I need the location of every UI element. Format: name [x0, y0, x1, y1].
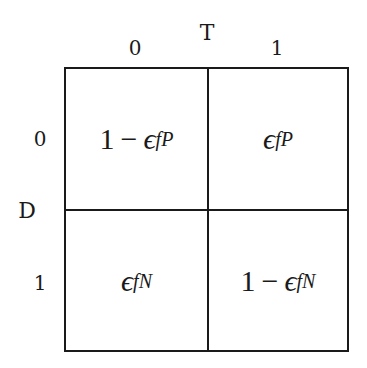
- row-label-0: 0: [34, 129, 47, 149]
- cell-d0-t1: ϵfP: [209, 69, 347, 209]
- row-axis-title: D: [18, 200, 36, 222]
- column-axis-title: T: [200, 22, 215, 44]
- row-label-1: 1: [34, 273, 47, 293]
- cell-prefix: 1: [241, 264, 256, 298]
- cell-d1-t0: ϵfN: [66, 211, 207, 350]
- cell-d1-t1: 1 − ϵfN: [209, 211, 347, 350]
- matrix-grid: 1 − ϵfP ϵfP ϵfN 1 − ϵfN: [64, 67, 349, 352]
- column-label-1: 1: [271, 38, 284, 58]
- epsilon-symbol: ϵ: [144, 122, 156, 156]
- epsilon-symbol: ϵ: [121, 264, 133, 298]
- epsilon-symbol: ϵ: [263, 122, 275, 156]
- cell-operator: −: [262, 264, 279, 298]
- cell-operator: −: [121, 122, 138, 156]
- cell-d0-t0: 1 − ϵfP: [66, 69, 207, 209]
- column-label-0: 0: [129, 38, 142, 58]
- epsilon-symbol: ϵ: [284, 264, 296, 298]
- cell-prefix: 1: [100, 122, 115, 156]
